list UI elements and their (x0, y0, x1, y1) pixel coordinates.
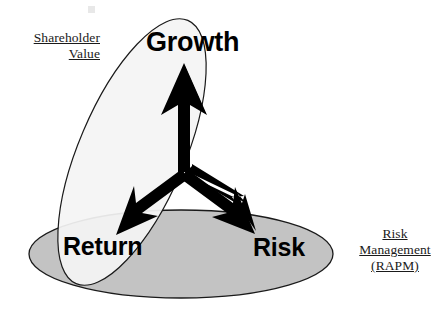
risk-management-line-3: (RAPM) (371, 258, 419, 273)
risk-management-line-2: Management (359, 242, 430, 257)
node-label-growth: Growth (146, 27, 239, 58)
diagram-canvas: Growth Return Risk Shareholder Value Ris… (0, 0, 441, 311)
arrow-hub (178, 160, 190, 172)
node-label-risk: Risk (253, 233, 305, 262)
shareholder-value-line-2: Value (69, 46, 100, 61)
annotation-risk-management: Risk Management (RAPM) (352, 226, 438, 274)
node-label-return: Return (63, 232, 142, 261)
annotation-shareholder-value: Shareholder Value (8, 30, 100, 62)
shareholder-value-line-1: Shareholder (34, 30, 100, 45)
risk-management-line-1: Risk (382, 226, 407, 241)
